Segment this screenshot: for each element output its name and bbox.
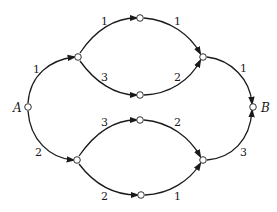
edge-b-l2: [145, 164, 200, 195]
edge-t-u2: [144, 18, 200, 53]
graph-diagram: A B 1 1 3 1 2 1 2 3 2 2 1 3: [0, 0, 277, 212]
node-label-A: A: [12, 101, 22, 115]
weight-m2-l2: 2: [174, 116, 181, 129]
node-lower-middle: [137, 117, 144, 124]
weight-l2-B: 3: [240, 146, 247, 159]
weight-t-u2: 1: [174, 15, 181, 28]
node-top: [137, 15, 144, 22]
node-lower-split: [74, 157, 81, 164]
weight-A-l1: 2: [35, 146, 42, 159]
edge-m2-l2: [144, 120, 200, 156]
node-A: [25, 104, 32, 111]
weight-l1-m2: 3: [101, 116, 108, 129]
node-upper-split: [75, 54, 82, 61]
node-upper-middle: [137, 92, 144, 99]
weight-u2-B: 1: [240, 62, 247, 75]
node-bottom: [138, 192, 145, 199]
weight-l1-b: 2: [101, 190, 108, 203]
edge-u1-t: [80, 18, 136, 53]
edge-u1-m1: [80, 61, 136, 95]
node-lower-merge: [200, 157, 207, 164]
weight-u1-t: 1: [101, 15, 108, 28]
weight-m1-u2: 2: [174, 71, 181, 84]
node-label-B: B: [260, 101, 270, 115]
weight-b-l2: 1: [174, 190, 181, 203]
node-B: [250, 104, 257, 111]
edge-l1-b: [79, 164, 137, 195]
edge-m1-u2: [144, 61, 200, 95]
weight-A-u1: 1: [33, 63, 40, 76]
weight-u1-m1: 3: [101, 71, 108, 84]
node-upper-merge: [200, 54, 207, 61]
